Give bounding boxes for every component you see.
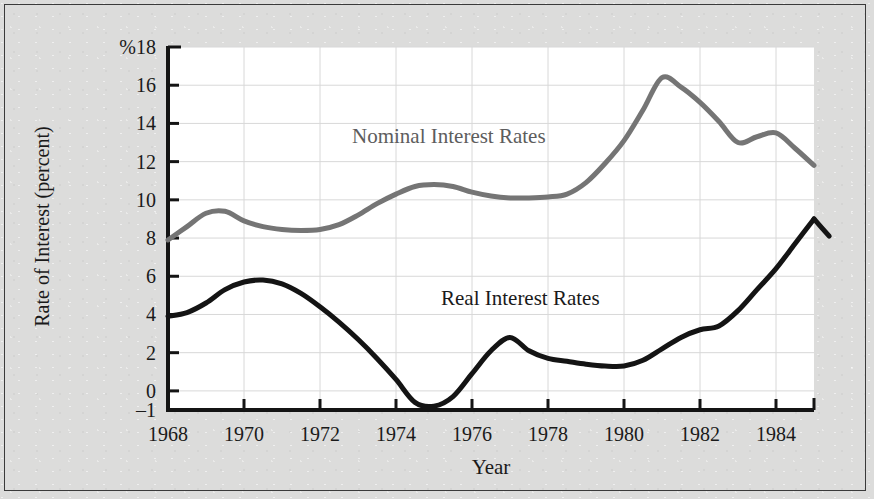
- series-label-nominal: Nominal Interest Rates: [352, 124, 546, 149]
- series-label-real: Real Interest Rates: [441, 286, 600, 311]
- y-axis-title: Rate of Interest (percent): [31, 77, 54, 377]
- y-tick-label: 10: [136, 190, 156, 210]
- y-tick-label: –1: [136, 400, 156, 420]
- y-tick-label: 8: [146, 228, 156, 248]
- x-tick-label: 1968: [128, 424, 208, 444]
- y-tick-label: 4: [146, 304, 156, 324]
- series-line-nominal: [168, 77, 814, 240]
- x-tick-label: 1972: [280, 424, 360, 444]
- figure-root: –10246810121416%18 196819701972197419761…: [0, 0, 874, 499]
- y-tick-label: 14: [136, 113, 156, 133]
- series-line-real-tail: [814, 219, 829, 236]
- x-tick-label: 1980: [584, 424, 664, 444]
- x-tick-label: 1974: [356, 424, 436, 444]
- y-tick-label: %18: [119, 37, 156, 57]
- series-line-real: [168, 219, 814, 407]
- x-tick-label: 1976: [432, 424, 512, 444]
- y-tick-label: 6: [146, 266, 156, 286]
- x-axis-title: Year: [168, 455, 814, 480]
- y-tick-label: 2: [146, 343, 156, 363]
- x-tick-label: 1984: [736, 424, 816, 444]
- x-tick-label: 1982: [660, 424, 740, 444]
- x-tick-label: 1978: [508, 424, 588, 444]
- x-tick-label: 1970: [204, 424, 284, 444]
- y-tick-label: 0: [146, 381, 156, 401]
- y-tick-label: 12: [136, 152, 156, 172]
- y-tick-label: 16: [136, 75, 156, 95]
